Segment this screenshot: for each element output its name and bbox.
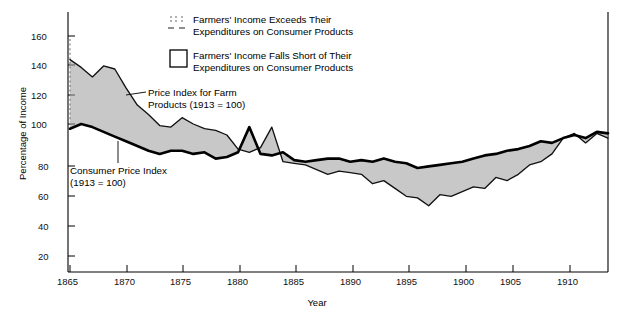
x-axis-ticks: [70, 265, 570, 272]
series-gap-band: [70, 60, 608, 206]
chart-figure: Percentage of Income Year 160 140 120 10…: [0, 0, 634, 320]
legend-swatch-dashed-band: [168, 16, 185, 28]
legend-swatch-open-box: [170, 50, 187, 67]
chart-plot-area: [0, 0, 634, 320]
